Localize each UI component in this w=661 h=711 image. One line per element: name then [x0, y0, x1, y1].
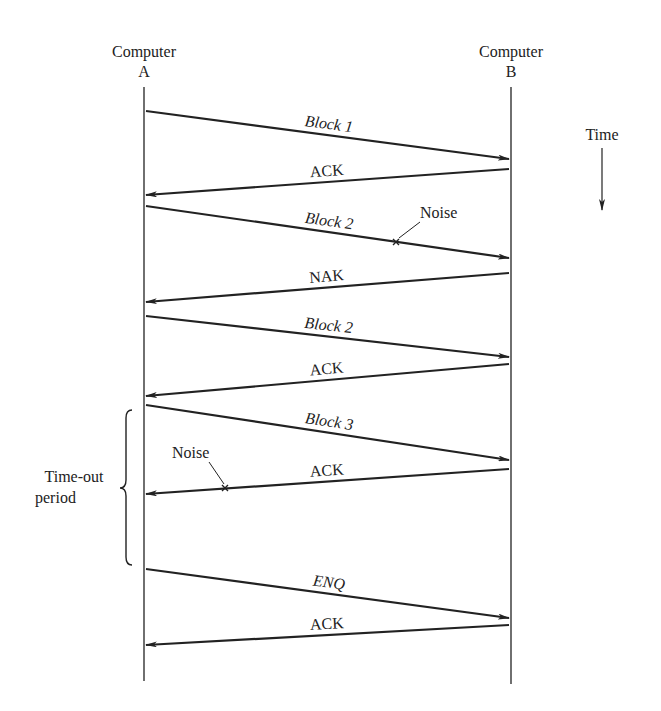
- computer-b-line2: B: [506, 63, 517, 80]
- computer-a-label: Computer A: [112, 43, 177, 80]
- message-3: Block 2Noise: [146, 204, 509, 258]
- noise-label: Noise: [420, 204, 457, 221]
- protocol-timing-diagram: Computer A Computer B Time Block 1ACKBlo…: [0, 0, 661, 711]
- message-6: ACK: [146, 359, 509, 396]
- message-label: ACK: [310, 614, 345, 633]
- message-10: ACK: [146, 614, 509, 645]
- noise-leader-line: [209, 462, 224, 484]
- message-4: NAK: [146, 266, 509, 302]
- noise-leader-line: [399, 222, 420, 238]
- message-label: Block 2: [304, 314, 354, 336]
- message-label: Block 1: [304, 112, 354, 135]
- message-arrows: Block 1ACKBlock 2NoiseNAKBlock 2ACKBlock…: [146, 111, 509, 645]
- message-label: ACK: [309, 359, 345, 379]
- curly-brace-icon: [120, 410, 132, 565]
- message-label: ACK: [309, 161, 344, 180]
- timeout-brace: Time-out period: [35, 410, 132, 565]
- computer-b-line1: Computer: [479, 43, 544, 61]
- time-axis: Time: [585, 126, 618, 210]
- time-label: Time: [585, 126, 618, 143]
- message-label: ENQ: [311, 571, 346, 592]
- message-2: ACK: [146, 161, 509, 195]
- message-5: Block 2: [146, 314, 509, 357]
- message-1: Block 1: [146, 111, 509, 159]
- noise-label: Noise: [172, 444, 209, 461]
- computer-a-line1: Computer: [112, 43, 177, 61]
- timeout-label-line2: period: [35, 489, 76, 507]
- computer-a-line2: A: [138, 63, 150, 80]
- timeout-label-line1: Time-out: [45, 468, 105, 485]
- message-label: ACK: [309, 460, 344, 479]
- message-label: NAK: [309, 266, 345, 286]
- message-9: ENQ: [146, 569, 509, 618]
- computer-b-label: Computer B: [479, 43, 544, 80]
